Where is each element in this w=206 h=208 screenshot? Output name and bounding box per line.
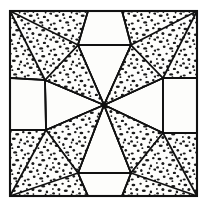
quilt-block-figure: Kaleidoscope quilt block line drawing bl… (0, 0, 206, 208)
edge-patch-right (163, 78, 197, 133)
quilt-block-drawing (0, 0, 206, 208)
edge-patch-left (10, 78, 46, 130)
seam-inner-square-left (45, 80, 46, 130)
